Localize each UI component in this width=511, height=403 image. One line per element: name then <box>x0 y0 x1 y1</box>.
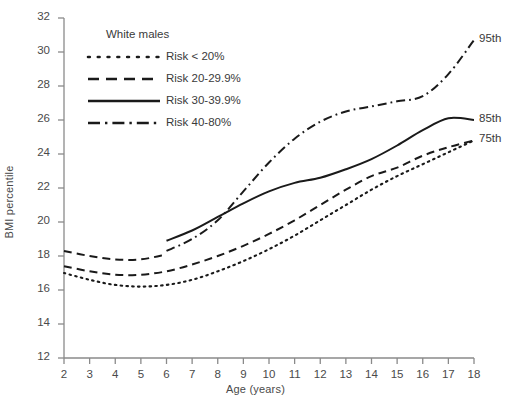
x-tick-label: 12 <box>309 368 331 380</box>
series-end-label: 95th <box>479 32 501 44</box>
series-line <box>64 251 167 260</box>
x-tick-label: 17 <box>437 368 459 380</box>
series-end-label: 75th <box>479 132 501 144</box>
series-line <box>167 118 475 241</box>
y-tick-label: 26 <box>20 112 50 124</box>
y-tick-label: 22 <box>20 180 50 192</box>
y-tick-label: 18 <box>20 248 50 260</box>
x-tick-label: 5 <box>130 368 152 380</box>
series-end-label: 85th <box>479 112 501 124</box>
series-line <box>64 140 474 275</box>
x-tick-label: 15 <box>386 368 408 380</box>
x-tick-label: 18 <box>463 368 485 380</box>
x-tick-label: 4 <box>104 368 126 380</box>
y-tick-label: 32 <box>20 10 50 22</box>
x-axis-title-text: Age (years) <box>226 383 285 395</box>
y-tick-label: 20 <box>20 214 50 226</box>
y-tick-label: 12 <box>20 350 50 362</box>
y-tick-label: 14 <box>20 316 50 328</box>
y-tick-label: 16 <box>20 282 50 294</box>
legend-item-label: Risk 30-39.9% <box>166 94 241 106</box>
bmi-percentile-chart: BMI percentile Age (years) 1214161820222… <box>0 0 511 403</box>
x-tick-label: 8 <box>207 368 229 380</box>
legend-item-label: Risk 20-29.9% <box>166 72 241 84</box>
x-tick-label: 6 <box>156 368 178 380</box>
x-tick-label: 11 <box>284 368 306 380</box>
x-tick-label: 2 <box>53 368 75 380</box>
x-axis-title: Age (years) <box>0 383 511 395</box>
x-tick-label: 7 <box>181 368 203 380</box>
x-tick-label: 16 <box>412 368 434 380</box>
y-axis-title-text: BMI percentile <box>3 165 15 238</box>
y-tick-label: 30 <box>20 44 50 56</box>
y-axis-title: BMI percentile <box>2 0 16 403</box>
plot-area <box>0 0 511 403</box>
x-tick-label: 13 <box>335 368 357 380</box>
x-tick-label: 10 <box>258 368 280 380</box>
legend-title: White males <box>106 28 169 40</box>
x-tick-label: 3 <box>79 368 101 380</box>
y-tick-label: 24 <box>20 146 50 158</box>
x-tick-label: 9 <box>232 368 254 380</box>
x-tick-label: 14 <box>361 368 383 380</box>
legend-item-label: Risk < 20% <box>166 50 224 62</box>
legend-item-label: Risk 40-80% <box>166 116 231 128</box>
y-tick-label: 28 <box>20 78 50 90</box>
